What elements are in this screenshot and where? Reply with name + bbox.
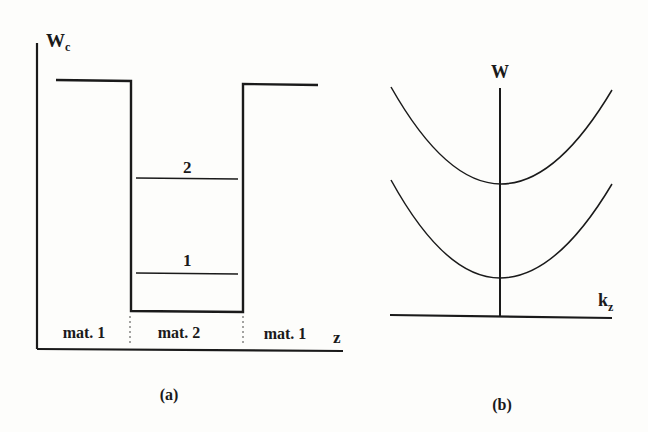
kz-axis <box>390 315 612 318</box>
kz-axis-label: kz <box>598 290 614 314</box>
z-axis-label: z <box>333 328 341 347</box>
panel-b: W kz (b) <box>390 62 614 414</box>
w-axis-label: W <box>491 62 509 82</box>
energy-level-2-label: 2 <box>183 158 192 177</box>
figure: Wc z 2 1 mat. 1 mat. 2 mat. 1 (a) W kz (… <box>0 0 648 432</box>
panel-a: Wc z 2 1 mat. 1 mat. 2 mat. 1 (a) <box>37 30 343 404</box>
region-label-mat2: mat. 2 <box>158 324 201 341</box>
caption-a: (a) <box>160 386 179 404</box>
x-axis-z <box>37 349 343 351</box>
quantum-well-profile <box>56 80 318 312</box>
energy-level-1 <box>136 273 238 274</box>
wc-axis-label: Wc <box>46 30 71 54</box>
region-label-mat1-left: mat. 1 <box>63 324 106 341</box>
caption-b: (b) <box>492 396 512 414</box>
subband-upper-parabola <box>391 87 612 184</box>
subband-lower-parabola <box>391 180 612 278</box>
region-label-mat1-right: mat. 1 <box>264 325 307 342</box>
energy-level-2 <box>136 178 238 179</box>
energy-level-1-label: 1 <box>183 251 192 270</box>
